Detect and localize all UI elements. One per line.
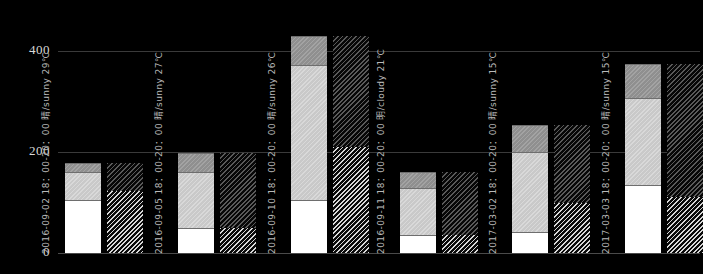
segment-hatch-dark-3 <box>333 36 369 147</box>
segment-dark-2 <box>178 153 214 172</box>
segment-hatch-dark-1 <box>107 163 143 191</box>
segment-dark-3 <box>291 36 327 65</box>
segment-hatch-light-6 <box>667 197 703 253</box>
segment-light-2 <box>178 172 214 228</box>
segment-hatch-light-1 <box>107 191 143 253</box>
segment-light-6 <box>625 98 661 185</box>
segment-light-4 <box>400 188 436 235</box>
segment-hatch-light-3 <box>333 147 369 253</box>
category-label-3: 2016-09-10 18：00-20：00 晴/sunny 26℃ <box>265 52 278 254</box>
segment-white-1 <box>65 200 101 253</box>
segment-dark-4 <box>400 172 436 188</box>
segment-light-3 <box>291 65 327 200</box>
segment-white-4 <box>400 235 436 253</box>
segment-dark-6 <box>625 64 661 98</box>
segment-hatch-light-2 <box>220 228 256 253</box>
segment-light-5 <box>512 152 548 232</box>
segment-dark-1 <box>65 163 101 172</box>
segment-hatch-light-5 <box>554 203 590 253</box>
category-label-1: 2016-09-02 18：00-20：00 晴/sunny 29℃ <box>39 52 52 254</box>
segment-hatch-dark-6 <box>667 64 703 197</box>
category-label-4: 2016-09-11 18：00-20：00 明/cloudy 21℃ <box>374 49 387 254</box>
segment-white-5 <box>512 232 548 253</box>
segment-hatch-dark-2 <box>220 153 256 228</box>
segment-hatch-light-4 <box>442 235 478 253</box>
segment-hatch-dark-5 <box>554 125 590 203</box>
category-label-6: 2017-03-03 18：00-20：00 晴/sunny 15℃ <box>599 52 612 254</box>
segment-white-2 <box>178 228 214 253</box>
category-label-2: 2016-09-05 18：00-20：00 晴/sunny 27℃ <box>152 52 165 254</box>
segment-light-1 <box>65 172 101 200</box>
segment-hatch-dark-4 <box>442 172 478 235</box>
category-label-5: 2017-03-02 18：00-20：00 晴/sunny 15℃ <box>486 52 499 254</box>
segment-white-3 <box>291 200 327 253</box>
segment-white-6 <box>625 185 661 253</box>
segment-dark-5 <box>512 125 548 152</box>
